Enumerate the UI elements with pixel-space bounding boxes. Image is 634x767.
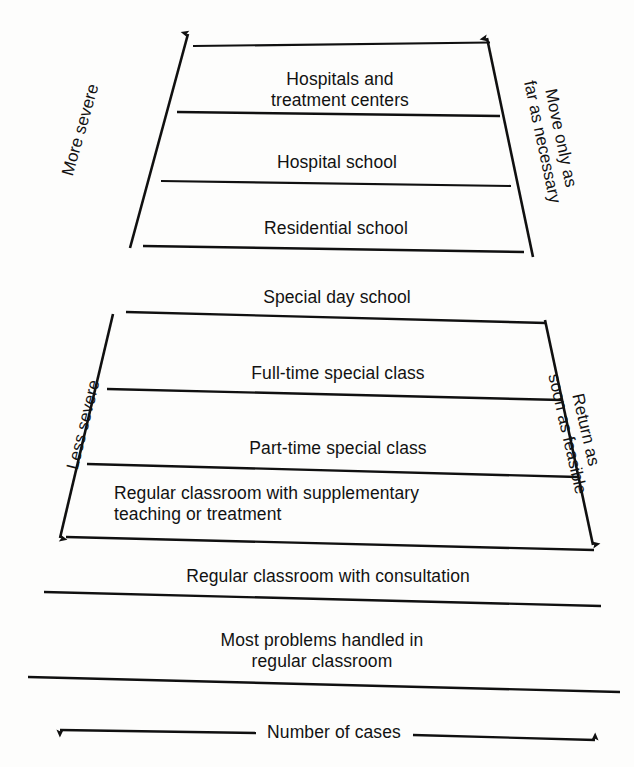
rule-part-time-class-bottom <box>87 464 578 477</box>
number-of-cases-arrow-right <box>413 735 595 740</box>
rule-hospitals-bottom <box>177 112 500 116</box>
level-label-hospitals: Hospitals and treatment centers <box>271 69 409 110</box>
axis-label-number-of-cases: Number of cases <box>267 722 401 743</box>
rule-consultation-bottom <box>44 592 601 606</box>
level-label-regular-classroom-consultation: Regular classroom with consultation <box>186 566 470 587</box>
number-of-cases-arrow-left <box>60 730 256 733</box>
rule-residential-school-bottom <box>143 246 524 252</box>
rule-special-day-school-bottom <box>126 312 546 323</box>
level-label-regular-classroom-supplementary: Regular classroom with supplementary tea… <box>114 483 419 524</box>
level-label-part-time-special-class: Part-time special class <box>249 438 426 459</box>
level-label-hospital-school: Hospital school <box>277 152 397 173</box>
rule-hospital-school-bottom <box>161 181 511 186</box>
level-label-full-time-special-class: Full-time special class <box>251 363 424 384</box>
more-severe-arrow <box>130 34 188 248</box>
level-label-residential-school: Residential school <box>264 218 408 239</box>
level-label-special-day-school: Special day school <box>263 287 411 308</box>
rule-most-problems-bottom <box>28 677 620 692</box>
level-label-most-problems-regular-classroom: Most problems handled in regular classro… <box>221 630 424 671</box>
rule-supplementary-bottom <box>66 537 594 550</box>
cascade-of-services-diagram: Hospitals and treatment centers Hospital… <box>0 0 634 767</box>
rule-full-time-class-bottom <box>107 389 562 400</box>
rule-upper-1 <box>193 43 490 47</box>
